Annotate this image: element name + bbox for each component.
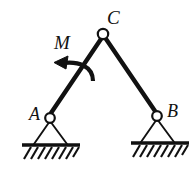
member-CB [106, 39, 155, 111]
label-moment-M: M [54, 33, 70, 52]
label-support-A: A [29, 105, 40, 123]
label-joint-C: C [107, 8, 120, 27]
ground-right [131, 143, 189, 157]
support-B [141, 119, 174, 142]
joint-C [98, 29, 108, 39]
ground-right-hatching [133, 145, 188, 157]
label-support-B: B [167, 102, 178, 120]
ground-left-hatching [24, 147, 79, 159]
joint-B [152, 111, 162, 121]
moment-arrowhead [54, 56, 68, 69]
frame-drawing [0, 0, 195, 173]
statics-diagram: C M A B [0, 0, 195, 173]
joint-A [45, 113, 55, 123]
ground-left [22, 145, 80, 159]
support-A [34, 121, 67, 144]
